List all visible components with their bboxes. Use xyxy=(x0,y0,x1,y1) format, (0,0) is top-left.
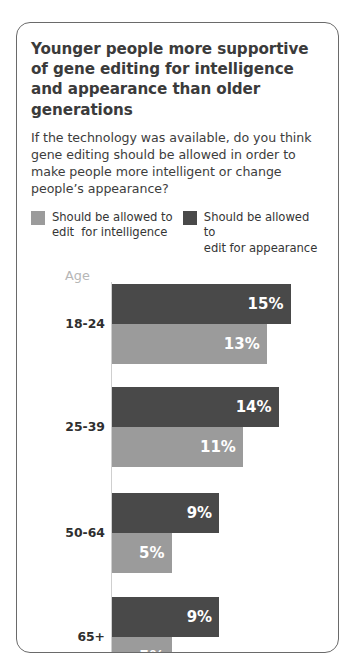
bar-group: 18-2415%13% xyxy=(31,282,324,370)
bar-group: 65+9%5% xyxy=(31,595,324,653)
bar-group: 50-649%5% xyxy=(31,491,324,579)
bar-appearance: 9% xyxy=(112,493,219,533)
category-label: 25-39 xyxy=(31,419,105,434)
chart-subtitle: If the technology was available, do you … xyxy=(31,129,324,198)
bar-appearance: 9% xyxy=(112,597,219,637)
page-title: Younger people more supportive of gene e… xyxy=(31,39,324,120)
legend-item-appearance: Should be allowed to edit for appearance xyxy=(183,210,324,255)
category-label: 50-64 xyxy=(31,525,105,540)
bar-value-label: 5% xyxy=(139,648,171,653)
bar-group: 25-3914%11% xyxy=(31,385,324,473)
bar-value-label: 11% xyxy=(200,438,243,456)
bar-intelligence: 11% xyxy=(112,427,243,467)
category-label: 18-24 xyxy=(31,316,105,331)
bar-intelligence: 13% xyxy=(112,324,267,364)
bar-intelligence: 5% xyxy=(112,533,172,573)
legend-swatch-icon-intelligence xyxy=(31,211,45,225)
bar-value-label: 5% xyxy=(139,544,171,562)
card-inner: Younger people more supportive of gene e… xyxy=(17,23,338,652)
legend-label-appearance: Should be allowed to edit for appearance xyxy=(204,210,324,255)
legend-label-intelligence: Should be allowed to edit for intelligen… xyxy=(52,210,173,240)
bar-intelligence: 5% xyxy=(112,637,172,653)
bar-value-label: 9% xyxy=(187,608,219,626)
bar-value-label: 9% xyxy=(187,504,219,522)
chart-legend: Should be allowed to edit for intelligen… xyxy=(31,210,324,255)
bar-value-label: 15% xyxy=(248,295,291,313)
chart-card: Younger people more supportive of gene e… xyxy=(16,22,339,653)
bar-chart: Age 18-2415%13%25-3914%11%50-649%5%65+9%… xyxy=(31,268,324,653)
axis-caption-age: Age xyxy=(65,268,90,283)
legend-swatch-icon-appearance xyxy=(183,211,197,225)
bar-appearance: 14% xyxy=(112,387,279,427)
bar-value-label: 13% xyxy=(224,335,267,353)
bar-value-label: 14% xyxy=(236,398,279,416)
bar-appearance: 15% xyxy=(112,284,291,324)
legend-item-intelligence: Should be allowed to edit for intelligen… xyxy=(31,210,183,240)
category-label: 65+ xyxy=(31,629,105,644)
